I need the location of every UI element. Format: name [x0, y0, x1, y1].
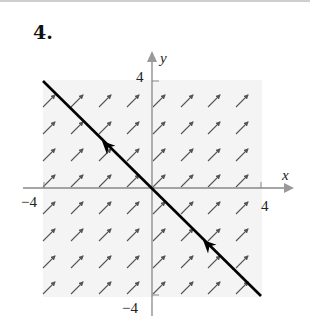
y-axis-label: y	[158, 50, 167, 66]
x-axis-label: x	[281, 167, 289, 183]
x-tick-neg-label: −4	[21, 194, 37, 210]
x-tick-pos-label: 4	[261, 198, 269, 214]
x-axis-arrow-icon	[284, 183, 294, 193]
y-tick-neg-label: −4	[122, 300, 138, 316]
y-tick-pos-label: 4	[136, 69, 144, 85]
y-axis-arrow-icon	[147, 51, 157, 62]
problem-number: 4.	[33, 21, 53, 43]
phase-portrait: 4. −4 4 4 −4 x y	[0, 0, 320, 324]
